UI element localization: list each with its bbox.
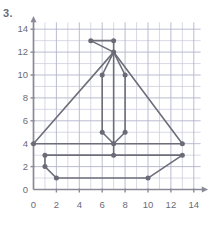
data-point [111, 141, 116, 146]
data-point [54, 176, 59, 181]
data-point [123, 73, 128, 78]
data-point [111, 50, 116, 55]
x-tick-label-0: 0 [24, 199, 44, 210]
y-tick-label-0: 0 [6, 184, 28, 195]
data-point [111, 38, 116, 43]
data-point [100, 73, 105, 78]
y-tick-label-8: 8 [6, 92, 28, 103]
data-point [42, 153, 47, 158]
y-tick-label-2: 2 [6, 161, 28, 172]
worksheet-plot-figure: 3. 02468101214 02468101214 [0, 0, 224, 226]
x-tick-label-2: 2 [46, 199, 66, 210]
y-tick-label-10: 10 [6, 69, 28, 80]
x-tick-label-14: 14 [184, 199, 204, 210]
data-point [180, 141, 185, 146]
y-tick-label-4: 4 [6, 138, 28, 149]
coordinate-grid-plot [0, 0, 224, 226]
data-point [100, 130, 105, 135]
data-point [42, 164, 47, 169]
x-tick-label-12: 12 [161, 199, 181, 210]
axes [31, 16, 209, 192]
data-point [88, 38, 93, 43]
y-tick-label-6: 6 [6, 115, 28, 126]
data-point [123, 130, 128, 135]
y-tick-label-12: 12 [6, 46, 28, 57]
data-point [180, 153, 185, 158]
data-point [146, 176, 151, 181]
x-tick-label-4: 4 [69, 199, 89, 210]
data-point [31, 141, 36, 146]
x-tick-label-6: 6 [92, 199, 112, 210]
grid-major-lines [34, 22, 201, 189]
x-tick-label-10: 10 [138, 199, 158, 210]
y-tick-label-14: 14 [6, 23, 28, 34]
x-tick-label-8: 8 [115, 199, 135, 210]
data-point [111, 153, 116, 158]
grid-minor-lines [34, 22, 201, 189]
